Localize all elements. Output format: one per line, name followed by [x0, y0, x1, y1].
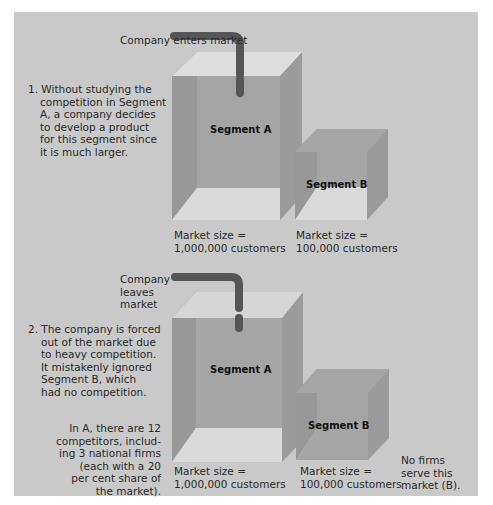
step-2-description: 2. The company is forced out of the mark…: [28, 323, 161, 399]
no-firms-line: market (B).: [401, 479, 460, 492]
description-line: 1. Without studying the: [28, 83, 166, 96]
market-size-value: 1,000,000 customers: [174, 478, 286, 491]
description-line: competition in Segment: [28, 96, 166, 109]
market-size-value: 100,000 customers: [296, 242, 398, 255]
segment-b-label: Segment B: [306, 179, 367, 190]
description-line: Segment B, which: [28, 373, 161, 386]
competition-note-line: ing 3 national firms: [56, 447, 161, 460]
competition-note-line: per cent share of: [56, 472, 161, 485]
market-size-label: Market size =: [296, 229, 398, 242]
no-firms-line: serve this: [401, 467, 460, 480]
market-size-label: Market size =: [174, 229, 286, 242]
market-size-value: 1,000,000 customers: [174, 242, 286, 255]
market-size-label: Market size =: [300, 465, 402, 478]
segment-b-box-1: [295, 129, 388, 220]
description-line: for this segment since: [28, 133, 166, 146]
segment-b-label: Segment B: [308, 420, 369, 431]
description-line: out of the market due: [28, 336, 161, 349]
no-firms-line: No firms: [401, 454, 460, 467]
entry-label-line: Company: [120, 34, 170, 46]
segment-a-label: Segment A: [210, 124, 271, 135]
competition-note-line: the market).: [56, 485, 161, 498]
exit-pipe-label: Company leaves market: [120, 273, 170, 311]
entry-label-line: enters: [173, 34, 206, 46]
description-line: it is much larger.: [28, 146, 166, 159]
step-1-description: 1. Without studying the competition in S…: [28, 83, 166, 159]
competition-note: In A, there are 12 competitors, includ- …: [56, 422, 161, 498]
segment-a-market-size: Market size = 1,000,000 customers: [174, 465, 286, 490]
market-size-value: 100,000 customers: [300, 478, 402, 491]
description-line: to heavy competition.: [28, 348, 161, 361]
description-line: to develop a product: [28, 121, 166, 134]
competition-note-line: (each with a 20: [56, 460, 161, 473]
exit-label-line: Company: [120, 273, 170, 286]
market-size-label: Market size =: [174, 465, 286, 478]
competition-note-line: competitors, includ-: [56, 435, 161, 448]
segment-a-label: Segment A: [210, 364, 271, 375]
description-line: had no competition.: [28, 386, 161, 399]
description-line: A, a company decides: [28, 108, 166, 121]
exit-label-line: market: [120, 298, 170, 311]
segment-a-market-size: Market size = 1,000,000 customers: [174, 229, 286, 254]
segment-b-market-size: Market size = 100,000 customers: [300, 465, 402, 490]
exit-label-line: leaves: [120, 286, 170, 299]
description-line: It mistakenly ignored: [28, 361, 161, 374]
entry-label-line: market: [210, 34, 247, 46]
description-line: 2. The company is forced: [28, 323, 161, 336]
competition-note-line: In A, there are 12: [56, 422, 161, 435]
entry-pipe-label: Company enters market: [120, 34, 247, 47]
segment-b-no-firms-note: No firms serve this market (B).: [401, 454, 460, 492]
segment-b-market-size: Market size = 100,000 customers: [296, 229, 398, 254]
segment-b-box-2: [296, 369, 389, 460]
